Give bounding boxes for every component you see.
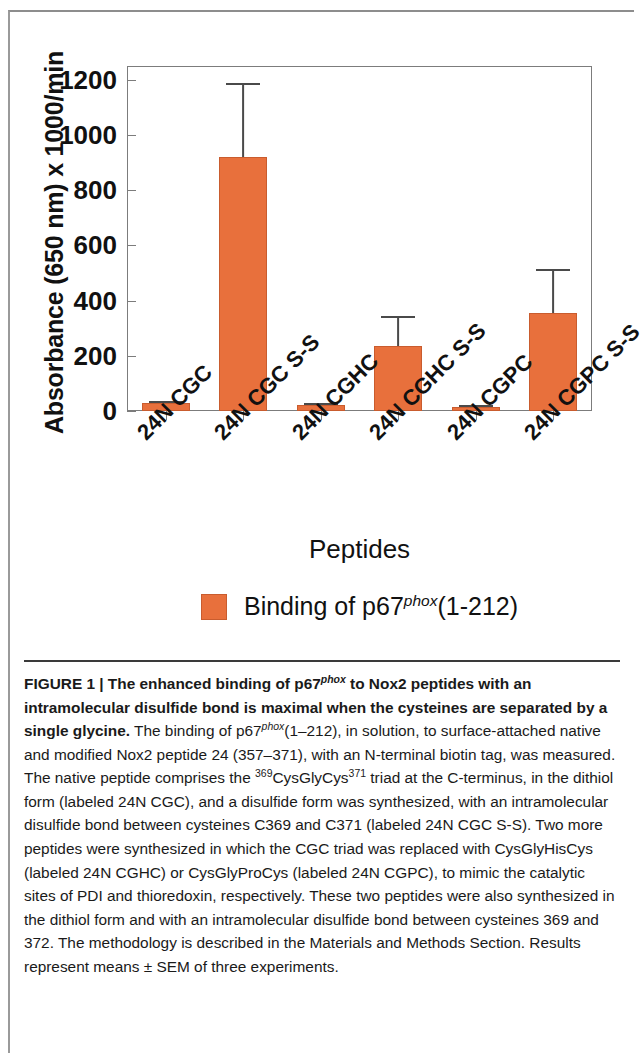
caption-superscript: phox [262, 721, 285, 732]
bar [219, 157, 267, 411]
bar-group [219, 66, 267, 411]
bar-group [374, 66, 422, 411]
bar-chart: Absorbance (650 nm) x 1000/min 120010008… [0, 14, 642, 654]
caption-superscript: 371 [349, 768, 366, 779]
error-bar-cap [381, 316, 415, 318]
y-tick-mark [127, 135, 136, 136]
y-tick-mark [127, 80, 136, 81]
caption-superscript: phox [321, 674, 346, 685]
error-bar [242, 83, 244, 158]
x-axis-tick-labels: 24N CGC24N CGC S-S24N CGHC24N CGHC S-S24… [127, 411, 592, 541]
legend-superscript: phox [404, 592, 438, 609]
y-tick-label: 0 [103, 396, 117, 427]
legend-swatch-icon [201, 594, 227, 620]
chart-legend: Binding of p67phox(1-212) [127, 592, 592, 621]
y-tick-mark [127, 411, 136, 412]
legend-label: Binding of p67phox(1-212) [244, 592, 518, 621]
y-tick-mark [127, 190, 136, 191]
error-bar-cap [536, 269, 570, 271]
caption-divider [24, 660, 620, 662]
y-tick-mark [127, 356, 136, 357]
figure-1: Absorbance (650 nm) x 1000/min 120010008… [0, 0, 642, 1059]
bar-group [142, 66, 190, 411]
y-tick-mark [127, 245, 136, 246]
error-bar [552, 269, 554, 313]
caption-superscript: 369 [255, 768, 272, 779]
y-tick-label: 1200 [59, 64, 117, 95]
y-tick-label: 200 [74, 340, 117, 371]
y-tick-mark [127, 301, 136, 302]
y-tick-label: 400 [74, 285, 117, 316]
caption-bold-lead: FIGURE 1 | The enhanced binding of p67ph… [24, 675, 607, 739]
error-bar [397, 316, 399, 346]
y-axis-tick-labels: 120010008006004002000 [0, 66, 127, 411]
y-tick-label: 800 [74, 175, 117, 206]
figure-caption: FIGURE 1 | The enhanced binding of p67ph… [24, 672, 620, 978]
y-tick-label: 1000 [59, 120, 117, 151]
bar-group [529, 66, 577, 411]
y-tick-label: 600 [74, 230, 117, 261]
x-axis-title: Peptides [127, 534, 592, 565]
error-bar-cap [226, 83, 260, 85]
